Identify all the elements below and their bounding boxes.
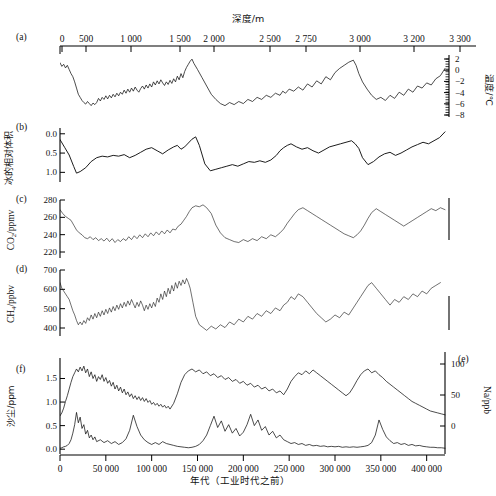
- panel-b-tick-label-2: 1.0: [46, 167, 58, 177]
- panel-a-tick-label-3: −4: [455, 88, 465, 98]
- panel-b-ticks: [60, 134, 65, 173]
- panel-f-tick-labels: 1.51.00.50.0: [46, 373, 58, 454]
- bottom-axis-tick-labels: 050 000100 000150 000200 000250 000300 0…: [58, 464, 443, 474]
- ch4-curve: [60, 278, 440, 330]
- panel-d-tick-labels: 700600500400: [44, 265, 58, 333]
- panel-c-tick-label-0: 280: [44, 195, 58, 205]
- panel-c-axis-title-tail: /ppmv: [6, 209, 16, 234]
- ice-core-figure: 深度/m 05001 0001 5002 0002 5002 7503 0003…: [0, 0, 496, 496]
- bottom-tick-label-5: 250 000: [274, 464, 305, 474]
- panel-a-ticks: [444, 59, 449, 115]
- svg-text:CH4/ppbv: CH4/ppbv: [6, 285, 17, 323]
- panel-d-letter: (d): [16, 264, 27, 275]
- panel-f-tick-label-1: 1.0: [46, 397, 58, 407]
- panel-d-tick-label-1: 600: [44, 284, 58, 294]
- panel-a-tick-label-1: 0: [455, 65, 460, 75]
- panel-a-axis-title: 温度/℃: [484, 74, 495, 105]
- temperature-curve: [60, 59, 445, 105]
- co2-curve: [60, 205, 445, 243]
- panel-c-axis-title: CO2/ppmv: [6, 209, 17, 250]
- top-axis-tick-labels: 05001 0001 5002 0002 5002 7503 0003 2003…: [60, 34, 471, 44]
- panel-e-tick-label-2: 0: [451, 421, 456, 431]
- bottom-tick-label-0: 0: [58, 464, 63, 474]
- sodium-curve: [60, 366, 445, 416]
- panel-b-tick-label-0: 0.0: [46, 129, 58, 139]
- bottom-age-axis: 050 000100 000150 000200 000250 000300 0…: [58, 455, 445, 486]
- panel-c-tick-label-1: 260: [44, 212, 58, 222]
- panel-c-co2: (c) 280260240220 CO2/ppmv: [6, 194, 449, 258]
- bottom-tick-label-1: 50 000: [93, 464, 119, 474]
- panel-e-tick-label-1: 50: [451, 390, 461, 400]
- bottom-axis-ticks: [60, 455, 427, 461]
- panel-c-letter: (c): [16, 194, 27, 205]
- bottom-tick-label-6: 300 000: [320, 464, 351, 474]
- top-tick-label-0: 0: [60, 34, 65, 44]
- top-tick-label-6: 2 750: [295, 34, 317, 44]
- panel-c-tick-label-3: 220: [44, 247, 58, 257]
- panel-b-axis-title: 冰的相对体积: [3, 131, 14, 185]
- top-tick-label-3: 1 500: [169, 34, 191, 44]
- panel-c-axis-title-main: CO: [6, 237, 16, 250]
- panel-f-tick-label-3: 0.0: [46, 444, 58, 454]
- panel-d-axis-title: CH4/ppbv: [6, 285, 17, 323]
- panel-b-letter: (b): [16, 122, 27, 133]
- panel-a-tick-label-0: 2: [455, 54, 460, 64]
- panel-c-tick-label-2: 240: [44, 230, 58, 240]
- panel-c-ticks: [60, 200, 65, 252]
- panel-f-ticks: [60, 378, 65, 449]
- top-tick-label-4: 2 000: [203, 34, 225, 44]
- top-tick-label-5: 2 500: [259, 34, 281, 44]
- panel-a-letter: (a): [16, 32, 27, 43]
- panel-f-tick-label-2: 0.5: [46, 421, 58, 431]
- top-tick-label-8: 3 200: [403, 34, 425, 44]
- panel-a-tick-label-4: −6: [455, 99, 465, 109]
- panel-b-ice-volume: (b) 0.00.51.0 冰的相对体积: [3, 122, 445, 185]
- panel-d-ch4: (d) 700600500400 CH4/ppbv: [6, 264, 449, 336]
- panel-d-ticks: [60, 270, 65, 328]
- panel-f-axis-title: 沙尘/ppm: [6, 385, 16, 426]
- panel-a-tick-label-2: −2: [455, 76, 465, 86]
- panel-f-axis-title-text: 沙尘/ppm: [6, 385, 16, 426]
- panel-a-temperature: (a) 20−2−4−6−8 温度/℃: [16, 32, 495, 120]
- panel-d-tick-label-0: 700: [44, 265, 58, 275]
- panel-e-axis-title: Na/ppb: [482, 386, 492, 414]
- panel-a-tick-labels: 20−2−4−6−8: [455, 54, 465, 120]
- bottom-tick-label-3: 150 000: [182, 464, 213, 474]
- panel-ef-dust-sodium: (f) (e) 1.51.00.50.0 沙尘/ppm 100500 Na/pp…: [6, 352, 492, 454]
- top-tick-label-9: 3 300: [449, 34, 471, 44]
- top-axis-ticks: [60, 46, 460, 54]
- panel-e-tick-labels: 100500: [451, 359, 465, 431]
- panel-b-tick-labels: 0.00.51.0: [46, 129, 58, 178]
- panel-e-tick-label-0: 100: [451, 359, 465, 369]
- panel-b-tick-label-1: 0.5: [46, 148, 58, 158]
- top-depth-axis: 深度/m 05001 0001 5002 0002 5002 7503 0003…: [60, 13, 476, 54]
- svg-text:CO2/ppmv: CO2/ppmv: [6, 209, 17, 250]
- bottom-tick-label-4: 200 000: [228, 464, 259, 474]
- top-axis-title: 深度/m: [232, 13, 264, 24]
- bottom-tick-label-2: 100 000: [136, 464, 167, 474]
- panel-d-axis-title-tail: /ppbv: [6, 285, 16, 307]
- top-tick-label-2: 1 000: [120, 34, 142, 44]
- bottom-tick-label-8: 400 000: [411, 464, 442, 474]
- panel-d-tick-label-2: 500: [44, 304, 58, 314]
- top-tick-label-1: 500: [79, 34, 94, 44]
- dust-curve: [60, 412, 445, 448]
- panel-a-tick-label-5: −8: [455, 110, 465, 120]
- panel-d-tick-label-3: 400: [44, 323, 58, 333]
- panel-d-axis-title-main: CH: [6, 310, 16, 323]
- top-tick-label-7: 3 000: [349, 34, 371, 44]
- bottom-axis-title: 年代（工业时代之前）: [190, 475, 290, 486]
- figure-canvas: 深度/m 05001 0001 5002 0002 5002 7503 0003…: [0, 0, 496, 496]
- ice-volume-curve: [60, 132, 445, 173]
- panel-e-ticks: [440, 364, 445, 426]
- panel-f-letter: (f): [16, 364, 26, 375]
- panel-f-tick-label-0: 1.5: [46, 373, 58, 383]
- bottom-tick-label-7: 350 000: [365, 464, 396, 474]
- panel-c-tick-labels: 280260240220: [44, 195, 58, 257]
